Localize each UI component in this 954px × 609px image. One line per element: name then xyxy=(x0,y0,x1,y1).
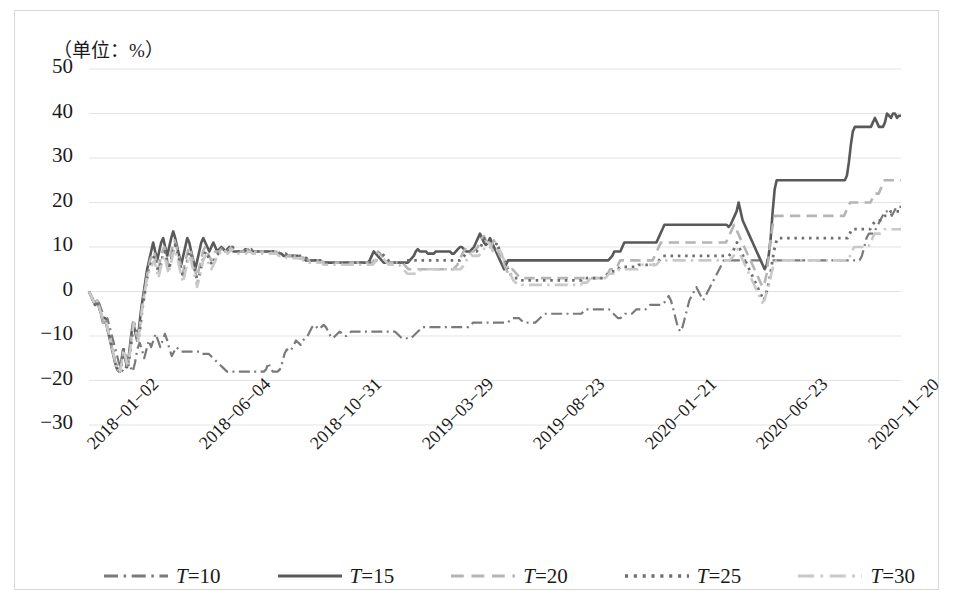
legend-swatch-T10 xyxy=(103,569,169,583)
y-tick-label: 50 xyxy=(15,54,73,79)
legend-item-T20[interactable]: T=20 xyxy=(450,564,568,589)
legend-item-T15[interactable]: T=15 xyxy=(277,564,395,589)
y-tick-label: 20 xyxy=(15,188,73,213)
legend-item-T30[interactable]: T=30 xyxy=(797,564,915,589)
legend-item-T25[interactable]: T=25 xyxy=(624,564,742,589)
y-tick-label: 0 xyxy=(15,277,73,302)
legend-label: T=25 xyxy=(697,564,742,589)
legend-label: T=20 xyxy=(523,564,568,589)
y-tick-label: −30 xyxy=(15,410,73,435)
chart-legend: T=10T=15T=20T=25T=30 xyxy=(103,559,915,593)
legend-swatch-T30 xyxy=(797,569,863,583)
legend-label: T=10 xyxy=(176,564,221,589)
legend-item-T10[interactable]: T=10 xyxy=(103,564,221,589)
series-line-T10 xyxy=(89,207,901,372)
legend-label: T=30 xyxy=(870,564,915,589)
line-chart-canvas xyxy=(15,11,940,591)
legend-label: T=15 xyxy=(350,564,395,589)
y-tick-label: −10 xyxy=(15,321,73,346)
y-tick-label: 40 xyxy=(15,99,73,124)
y-tick-label: −20 xyxy=(15,366,73,391)
y-tick-label: 30 xyxy=(15,143,73,168)
y-tick-label: 10 xyxy=(15,232,73,257)
legend-swatch-T15 xyxy=(277,569,343,583)
series-line-T20 xyxy=(89,180,901,371)
chart-page: （单位：%） 50403020100−10−20−30 2018−01−0220… xyxy=(0,0,954,609)
figure-frame: （单位：%） 50403020100−10−20−30 2018−01−0220… xyxy=(14,10,939,590)
legend-swatch-T25 xyxy=(624,569,690,583)
legend-swatch-T20 xyxy=(450,569,516,583)
series-line-T15 xyxy=(89,114,901,372)
